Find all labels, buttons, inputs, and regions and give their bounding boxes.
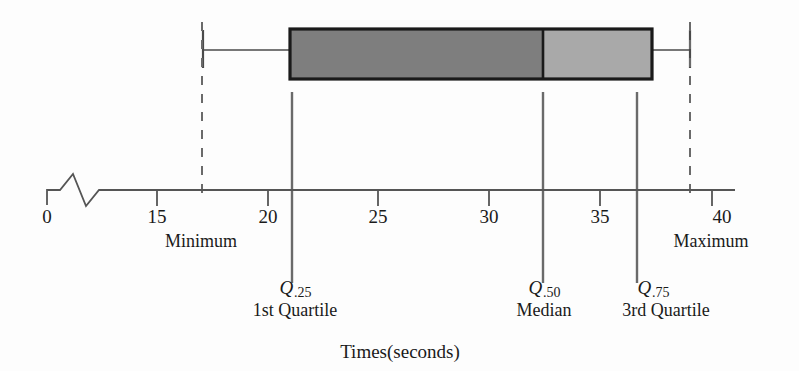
axis-tick-label-0: 0 xyxy=(42,206,52,228)
q3-subscript: .75 xyxy=(652,285,670,300)
annotation-q3-symbol: Q.75 xyxy=(637,277,668,299)
annotation-median-text: Median xyxy=(517,300,572,321)
axis-caption: Times(seconds) xyxy=(340,341,460,363)
q1-subscript: .25 xyxy=(294,285,312,300)
annotation-maximum: Maximum xyxy=(674,231,749,252)
box-q1-to-median xyxy=(290,29,543,79)
annotation-q1-symbol: Q.25 xyxy=(279,277,310,299)
median-subscript: .50 xyxy=(543,285,561,300)
axis-tick-label-40: 40 xyxy=(713,206,732,228)
axis-line-with-break xyxy=(47,174,735,206)
q3-q-glyph: Q xyxy=(637,277,651,298)
annotation-minimum: Minimum xyxy=(165,231,237,252)
annotation-q1-text: 1st Quartile xyxy=(253,300,337,321)
axis-tick-label-15: 15 xyxy=(148,206,167,228)
q1-q-glyph: Q xyxy=(279,277,293,298)
annotation-q3-text: 3rd Quartile xyxy=(622,300,709,321)
axis-tick-label-35: 35 xyxy=(591,206,610,228)
axis-tick-label-25: 25 xyxy=(369,206,388,228)
boxplot-figure: 0 15 20 25 30 35 40 Minimum Maximum Q.25… xyxy=(0,0,799,371)
axis-tick-label-20: 20 xyxy=(259,206,278,228)
axis-tick-label-30: 30 xyxy=(480,206,499,228)
median-q-glyph: Q xyxy=(528,277,542,298)
box-median-to-q3 xyxy=(543,29,652,79)
annotation-median-symbol: Q.50 xyxy=(528,277,559,299)
